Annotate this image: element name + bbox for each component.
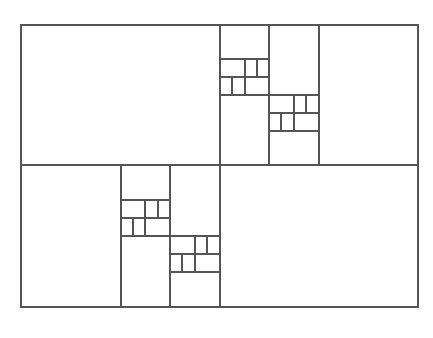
rectangle-subdivision-diagram [0,0,433,338]
subdivision-lines [21,25,418,307]
